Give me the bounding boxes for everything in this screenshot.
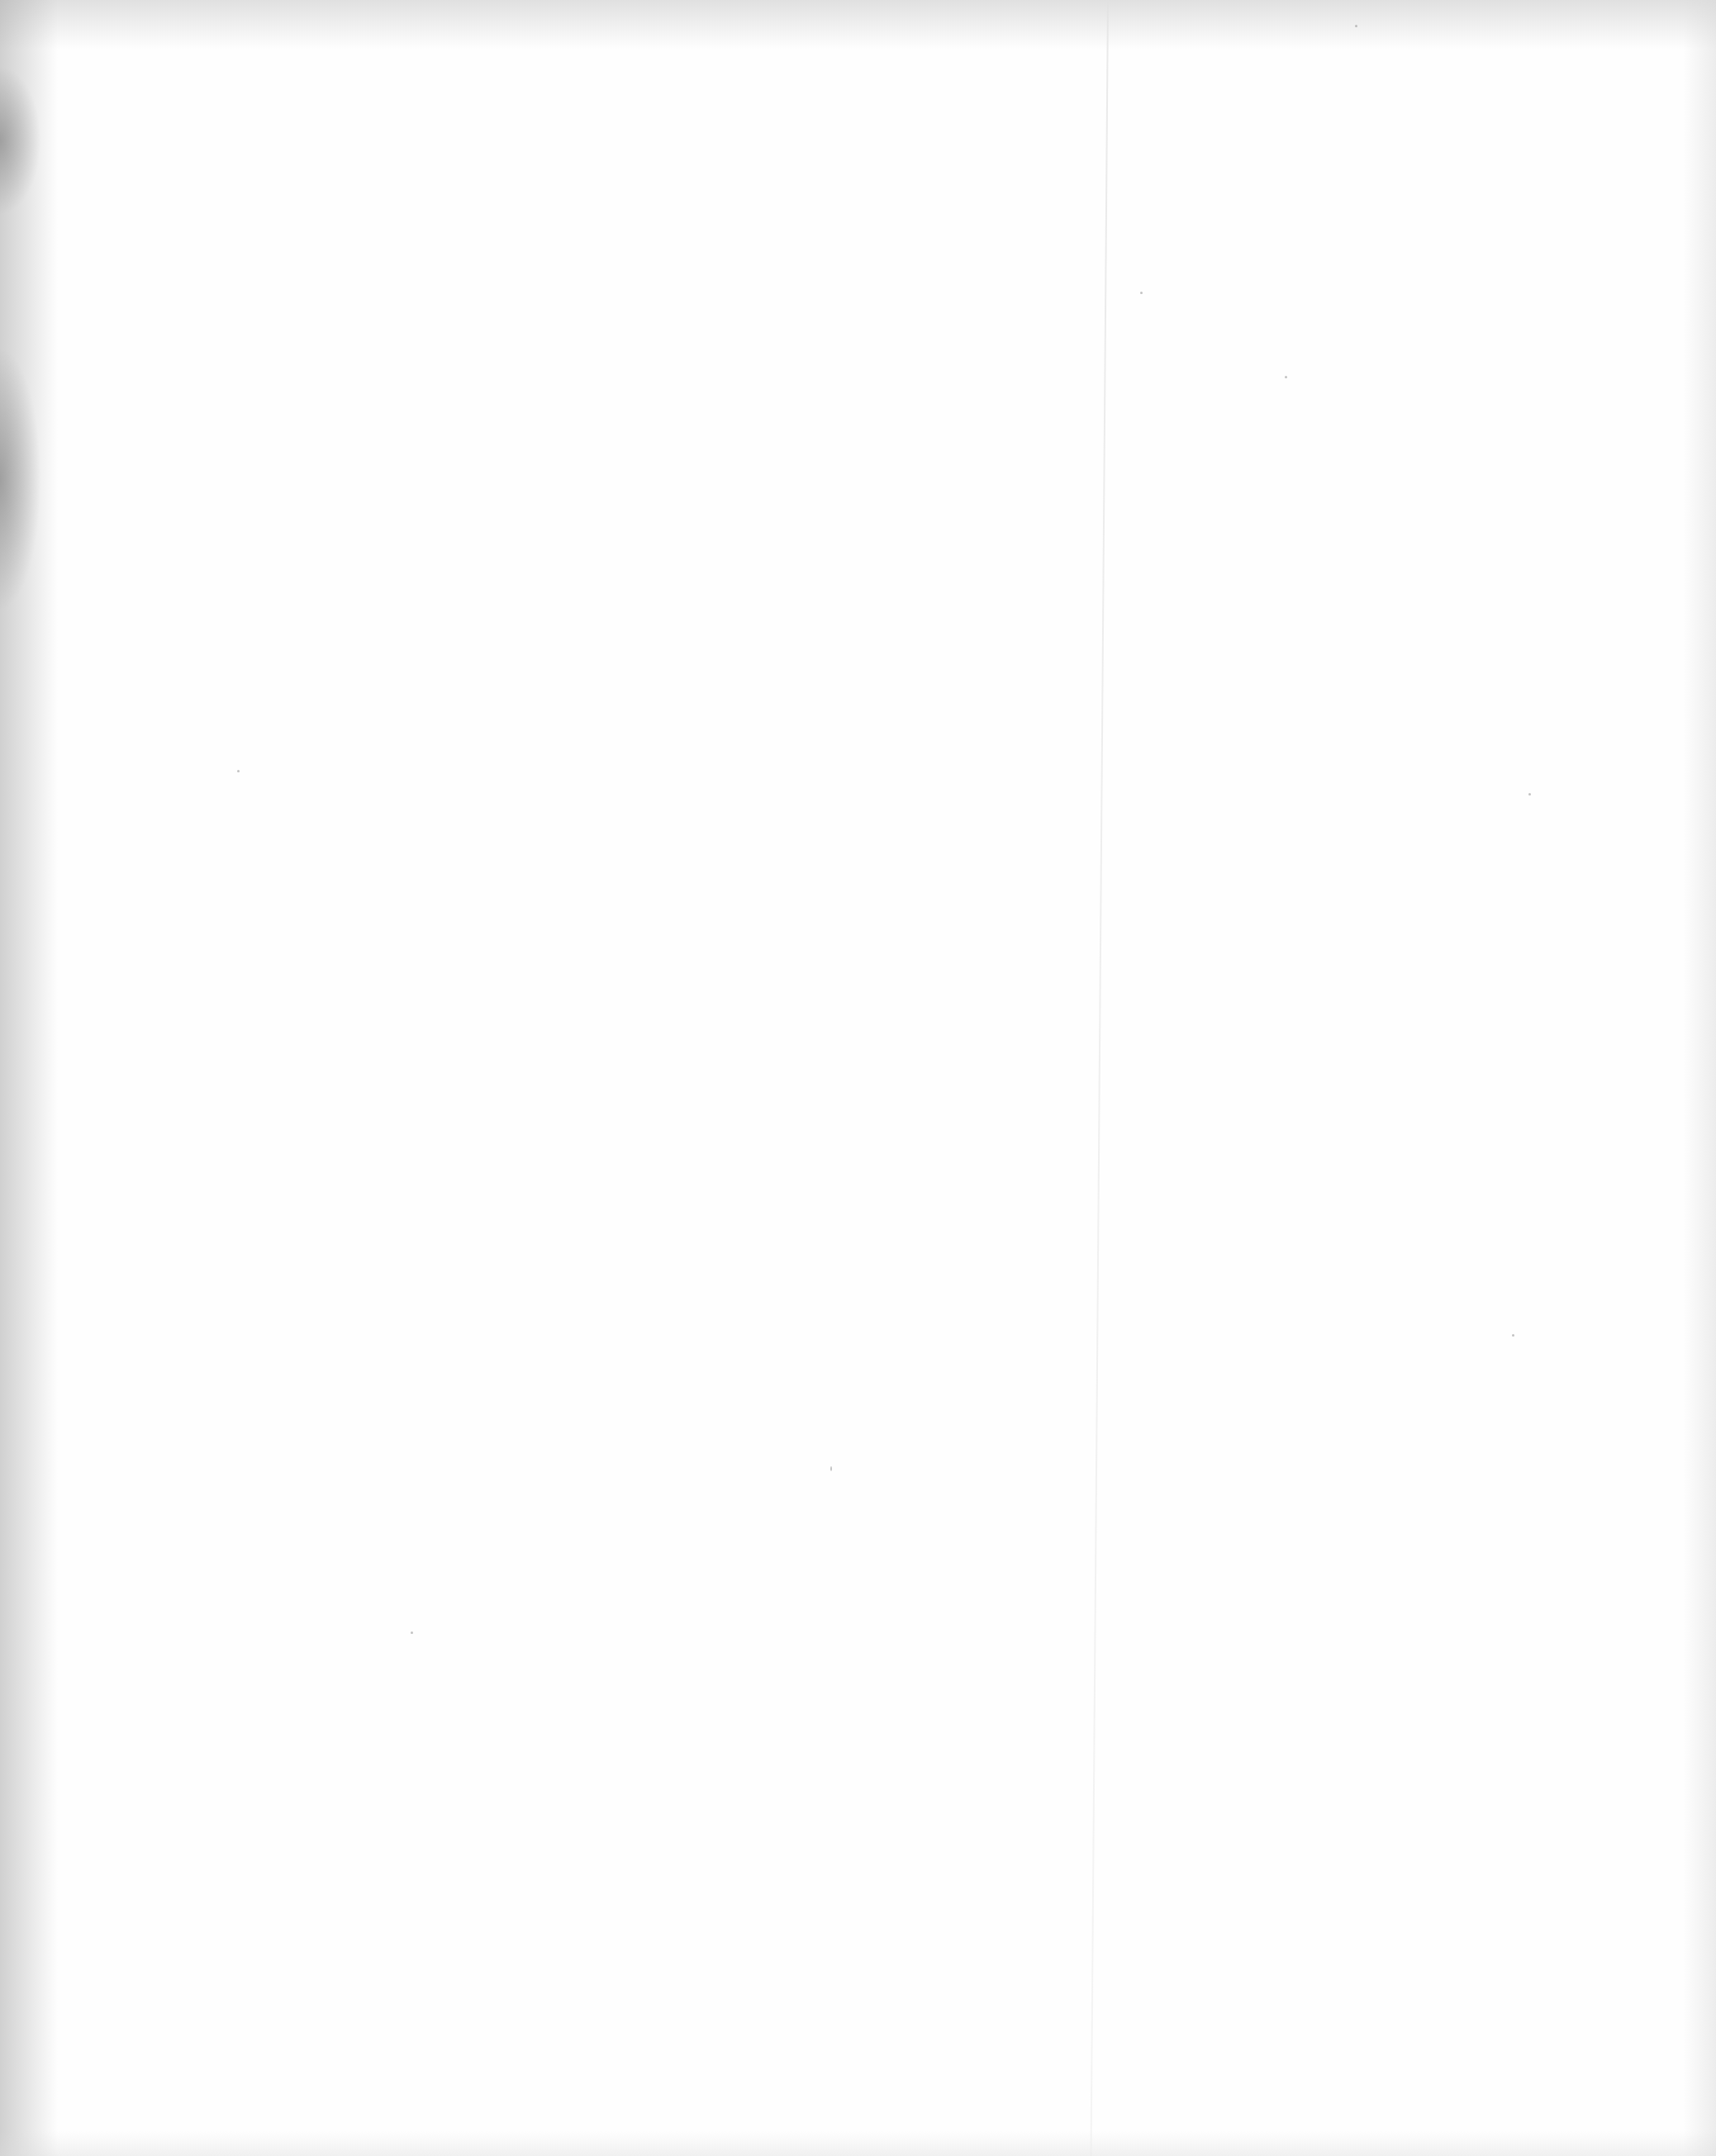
dust-speck [1528, 793, 1531, 795]
top-scan-shadow [0, 0, 1716, 50]
bottom-scan-edge-shadow [0, 2131, 1716, 2156]
dust-speck [1512, 1334, 1514, 1337]
page-fold-line [1091, 0, 1109, 2156]
dust-speck [237, 770, 240, 772]
dust-speck [1140, 292, 1143, 294]
dust-speck [830, 1466, 832, 1471]
left-scan-edge-shadow [0, 0, 58, 2156]
right-scan-edge-shadow [1683, 0, 1716, 2156]
left-edge-smudge [0, 66, 41, 215]
dust-speck [411, 1631, 413, 1634]
dust-speck [1285, 376, 1287, 378]
blank-scanned-page [0, 0, 1716, 2156]
left-edge-smudge [0, 347, 41, 611]
dust-speck [1355, 25, 1357, 27]
